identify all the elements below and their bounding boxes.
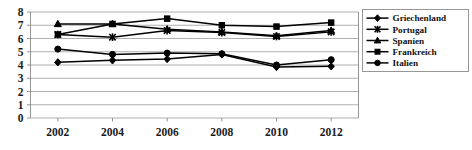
datapoint-marker (328, 20, 333, 25)
x-axis-tick-label: 2010 (265, 126, 288, 138)
x-axis-tick-label: 2002 (46, 126, 69, 138)
y-axis-tick-label: 2 (18, 86, 24, 98)
datapoint-marker (110, 21, 115, 26)
x-axis-tick-label: 2012 (320, 126, 343, 138)
y-axis-tick-label: 4 (18, 59, 24, 71)
datapoint-marker (328, 63, 334, 70)
datapoint-marker (328, 57, 334, 63)
y-axis-tick-label: 8 (18, 6, 24, 18)
gridlines (31, 12, 359, 118)
legend-item-label: Griechenland (393, 13, 447, 23)
y-axis-tick-label: 1 (18, 99, 24, 111)
datapoint-marker (109, 51, 115, 57)
y-axis-tick-label: 5 (18, 46, 24, 58)
y-axis-tick-label: 3 (18, 72, 24, 84)
datapoint-marker (164, 50, 170, 56)
x-axis-tick-label: 2008 (210, 126, 233, 138)
legend-item-label: Frankreich (393, 47, 437, 57)
legend-item-label: Italien (393, 58, 419, 68)
y-axis-tick-labels: 012345678 (18, 6, 24, 124)
plot-area: 012345678 200220042006200820102012 Griec… (0, 0, 472, 150)
datapoint-marker (164, 16, 169, 21)
data-series-layer (54, 16, 334, 71)
legend-item-label: Portugal (393, 25, 428, 35)
chart-legend: GriechenlandPortugalSpanienFrankreichIta… (363, 10, 469, 72)
datapoint-marker (274, 24, 279, 29)
legend-marker-square (375, 49, 380, 54)
line-chart: 012345678 200220042006200820102012 Griec… (0, 0, 472, 150)
x-axis-tick-labels: 200220042006200820102012 (46, 126, 343, 138)
y-axis-tick-label: 6 (18, 33, 24, 45)
datapoint-marker (55, 46, 61, 52)
x-axis-tick-label: 2004 (101, 126, 124, 138)
y-axis-tick-label: 7 (18, 19, 24, 31)
legend-item-label: Spanien (393, 36, 425, 46)
datapoint-marker (55, 32, 60, 37)
datapoint-marker (273, 62, 279, 68)
datapoint-marker (219, 23, 224, 28)
x-axis-tick-label: 2006 (156, 126, 179, 138)
legend-marker-circle (375, 60, 381, 66)
datapoint-marker (219, 51, 225, 57)
y-axis-tick-label: 0 (18, 112, 24, 124)
